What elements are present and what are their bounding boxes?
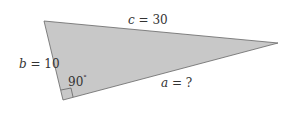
side-c-label: c = 30 (128, 13, 168, 27)
side-b-value: = 10 (27, 57, 60, 71)
side-b-var: b (19, 57, 27, 71)
degree-symbol: ° (83, 74, 87, 82)
side-c-value: = 30 (135, 13, 168, 27)
triangle-diagram: c = 30 b = 10 a = ? 90° (0, 0, 295, 133)
side-a-var: a (161, 76, 168, 90)
side-b-label: b = 10 (19, 57, 60, 71)
angle-value: 90 (68, 75, 83, 89)
side-a-label: a = ? (161, 76, 192, 90)
side-a-value: = ? (168, 76, 192, 90)
